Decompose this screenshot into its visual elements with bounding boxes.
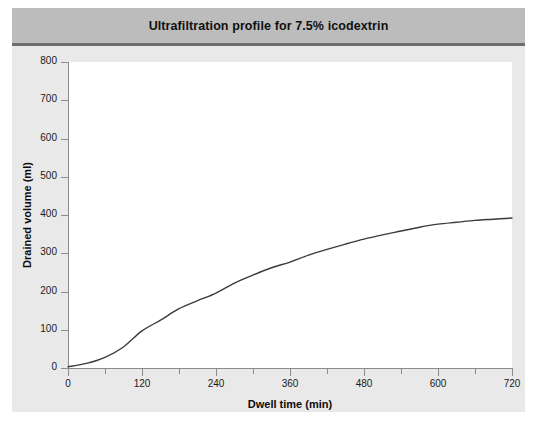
y-tick-label: 200 [40, 285, 57, 296]
x-tick-label: 360 [282, 378, 299, 389]
y-tick-label: 300 [40, 246, 57, 257]
x-tick-minor [179, 369, 180, 374]
y-tick: 100 [61, 330, 68, 331]
y-tick-label: 700 [40, 93, 57, 104]
y-tick: 400 [61, 215, 68, 216]
y-tick: 200 [61, 292, 68, 293]
y-tick: 0 [61, 368, 68, 369]
x-tick-label: 240 [208, 378, 225, 389]
y-axis-label-text: Drained volume (ml) [21, 162, 33, 268]
x-tick-minor [327, 369, 328, 374]
figure-panel: Ultrafiltration profile for 7.5% icodext… [12, 8, 525, 412]
x-tick: 360 [290, 369, 291, 376]
y-axis-label: Drained volume (ml) [18, 62, 36, 368]
y-tick: 500 [61, 177, 68, 178]
y-tick-label: 800 [40, 55, 57, 66]
y-tick: 800 [61, 62, 68, 63]
page-title: Ultrafiltration profile for 7.5% icodext… [149, 19, 389, 33]
x-tick: 600 [438, 369, 439, 376]
x-tick: 120 [142, 369, 143, 376]
y-tick-label: 600 [40, 132, 57, 143]
y-tick-label: 400 [40, 208, 57, 219]
x-tick-label: 720 [504, 378, 521, 389]
x-tick: 480 [364, 369, 365, 376]
x-axis-label: Dwell time (min) [68, 398, 512, 410]
x-tick-minor [253, 369, 254, 374]
x-tick-label: 600 [430, 378, 447, 389]
y-tick: 700 [61, 100, 68, 101]
x-tick-label: 0 [65, 378, 71, 389]
y-tick-label: 0 [51, 361, 57, 372]
y-tick-label: 500 [40, 170, 57, 181]
x-tick-minor [401, 369, 402, 374]
x-tick-minor [475, 369, 476, 374]
chart-title-bar: Ultrafiltration profile for 7.5% icodext… [12, 8, 525, 46]
x-tick: 0 [68, 369, 69, 376]
plot-wrapper: 0100200300400500600700800 01202403604806… [12, 46, 525, 412]
y-tick-label: 100 [40, 323, 57, 334]
data-curve-svg [68, 62, 512, 368]
x-tick: 720 [512, 369, 513, 376]
y-tick: 600 [61, 139, 68, 140]
x-tick-label: 480 [356, 378, 373, 389]
series-line-icodextrin [68, 218, 512, 367]
x-tick-label: 120 [134, 378, 151, 389]
x-tick-minor [105, 369, 106, 374]
y-tick: 300 [61, 253, 68, 254]
x-tick: 240 [216, 369, 217, 376]
